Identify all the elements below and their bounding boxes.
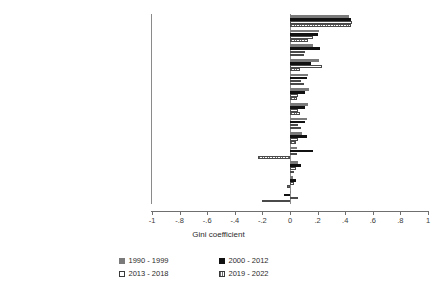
y-axis-line [151,14,152,204]
bar-s2019 [258,156,290,159]
category-row: Electric, Gas, Sanitary Services [0,87,437,102]
category-row: Retail Trade [0,102,437,117]
bar-s2019 [290,127,301,130]
category-row: All [0,116,437,131]
legend-item-s1990[interactable]: 1990 - 1999 [119,256,219,265]
category-row: Public Wastewater Treatment [0,72,437,87]
x-axis-tick-label: -1 [149,216,156,225]
bar-s2013 [290,182,294,185]
gini-coefficient-bar-chart: MiningWholesale TradeAg, Forestry, Fishi… [0,0,437,295]
category-row: Transpo and Comms [0,131,437,146]
legend-label: 1990 - 1999 [129,256,169,265]
x-axis-tick-label: -.8 [175,216,184,225]
x-axis-tick [262,211,263,215]
legend-swatch-icon [119,258,125,264]
x-axis-tick-label: .6 [370,216,376,225]
legend-item-s2019[interactable]: 2019 - 2022 [219,269,319,278]
x-axis-tick [345,211,346,215]
bar-s2013 [290,197,298,200]
x-axis-title: Gini coefficient [0,230,437,239]
legend-swatch-icon [119,271,125,277]
bar-s2019 [290,54,304,57]
x-axis-tick [400,211,401,215]
x-axis-tick [373,211,374,215]
x-axis-tick-label: .4 [342,216,348,225]
category-row: Construction [0,189,437,204]
x-axis-tick-label: .2 [314,216,320,225]
x-axis-tick-label: .8 [397,216,403,225]
category-row: Manufacturing [0,58,437,73]
bar-s2019 [290,97,297,100]
legend-swatch-icon [219,271,225,277]
bar-s2019 [262,200,290,203]
x-axis-tick [207,211,208,215]
x-axis-tick [428,211,429,215]
x-axis-tick-label: 0 [288,216,292,225]
x-axis-tick-label: 1 [426,216,430,225]
bar-s2013 [290,153,297,156]
bar-s1990 [290,191,291,194]
legend-label: 2000 - 2012 [229,256,269,265]
legend-item-s2000[interactable]: 2000 - 2012 [219,256,319,265]
legend-label: 2013 - 2018 [129,269,169,278]
bar-s2019 [290,83,304,86]
bar-s2019 [290,141,296,144]
bar-s2019 [290,112,300,115]
bar-s2019 [287,185,290,188]
legend-item-s2013[interactable]: 2013 - 2018 [119,269,219,278]
category-row: Mining [0,14,437,29]
bar-s2019 [290,39,308,42]
category-row: Public Administration [0,175,437,190]
x-axis-tick [152,211,153,215]
x-axis-tick [180,211,181,215]
legend-label: 2019 - 2022 [229,269,269,278]
x-axis-tick [235,211,236,215]
category-row: Ag, Forestry, Fishing [0,43,437,58]
x-axis-tick [290,211,291,215]
category-row: Wholesale Trade [0,29,437,44]
category-row: Services [0,160,437,175]
x-axis-tick-label: -.4 [230,216,239,225]
chart-legend: 1990 - 19992000 - 20122013 - 20182019 - … [0,256,437,278]
legend-swatch-icon [219,258,225,264]
x-axis-tick-label: -.6 [203,216,212,225]
x-axis-tick-label: -.2 [258,216,267,225]
bar-s2019 [290,171,294,174]
category-row: Finance, Insurance, Real Estate [0,146,437,161]
x-axis-tick [318,211,319,215]
bar-s2019 [290,68,300,71]
bar-s2019 [290,24,351,27]
